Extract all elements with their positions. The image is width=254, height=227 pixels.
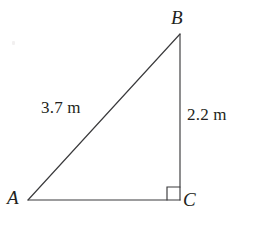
side-length-label-bc: 2.2 m bbox=[187, 106, 227, 123]
side-length-label-ab: 3.7 m bbox=[41, 99, 81, 116]
geometry-figure: A B C 3.7 m 2.2 m bbox=[0, 0, 254, 227]
side-ab-hypotenuse-line bbox=[28, 34, 180, 200]
vertex-label-b: B bbox=[171, 8, 183, 27]
scan-artifact-speck bbox=[12, 41, 15, 45]
right-angle-marker-icon bbox=[167, 187, 180, 200]
vertex-label-a: A bbox=[7, 188, 19, 207]
vertex-label-c: C bbox=[183, 190, 196, 209]
